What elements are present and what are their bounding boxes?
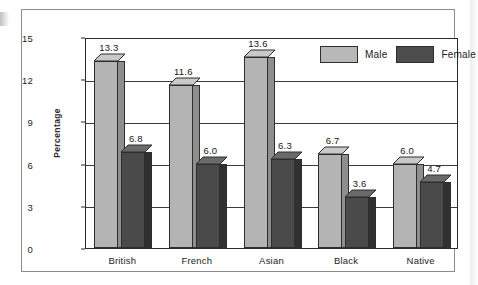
chart-legend: MaleFemale [320,46,476,63]
legend-item-female[interactable]: Female [396,46,476,63]
bar-front-face [393,164,417,248]
x-axis-label-black: Black [334,255,358,266]
value-label-french-male: 11.6 [174,66,193,77]
y-axis-tick-label: 3 [7,201,33,212]
legend-label-female: Female [441,49,476,60]
bar-front-face [420,182,444,248]
female-swatch [396,46,434,63]
bar-british-female [121,152,145,248]
bar-side-face [220,164,227,248]
bar-asian-female [271,159,295,248]
bar-black-female [345,197,369,248]
bar-front-face [196,164,220,248]
bar-native-female [420,182,444,248]
y-axis-tick-label: 15 [7,33,33,44]
bar-front-face [318,154,342,248]
legend-label-male: Male [365,49,387,60]
bar-french-male [169,85,193,248]
bar-side-face [369,197,376,248]
legend-item-male[interactable]: Male [320,46,387,63]
value-label-british-male: 13.3 [99,42,118,53]
value-label-french-female: 6.0 [203,145,217,156]
bar-top-face [196,157,220,164]
x-axis-label-french: French [182,255,213,266]
bar-top-face [169,78,193,85]
value-label-native-male: 6.0 [400,145,414,156]
bar-top-face [318,147,342,154]
bar-front-face [169,85,193,248]
bar-british-male [94,61,118,248]
bar-side-face [145,152,152,248]
bar-side-face [295,159,302,248]
bar-top-face [345,190,369,197]
scan-artifact-right [470,0,478,285]
bar-black-male [318,154,342,248]
value-label-british-female: 6.8 [129,133,143,144]
value-label-native-female: 4.7 [427,163,441,174]
bar-front-face [94,61,118,248]
value-label-asian-female: 6.3 [278,140,292,151]
value-label-black-female: 3.6 [353,178,367,189]
bar-top-face [271,152,295,159]
bar-top-face [94,54,118,61]
bar-native-male [393,164,417,248]
bar-asian-male [244,57,268,248]
y-axis-tick-label: 0 [7,244,33,255]
x-axis-label-asian: Asian [259,255,284,266]
bar-top-face [420,175,444,182]
bar-front-face [244,57,268,248]
y-axis-tick-label: 12 [7,75,33,86]
bar-french-female [196,164,220,248]
y-axis-tick-label: 6 [7,159,33,170]
bar-front-face [345,197,369,248]
x-axis-label-native: Native [407,255,435,266]
bar-front-face [271,159,295,248]
y-axis-title: Percentage [52,108,62,158]
bar-top-face [244,50,268,57]
value-label-asian-male: 13.6 [248,38,267,49]
bar-top-face [121,145,145,152]
figure-frame: Percentage 03691215 BritishFrenchAsianBl… [21,9,455,272]
scan-artifact-left [0,12,9,26]
y-axis-tick-label: 9 [7,117,33,128]
bar-side-face [444,182,451,248]
x-axis-label-british: British [108,255,136,266]
male-swatch [320,46,358,63]
bar-front-face [121,152,145,248]
bar-top-face [393,157,417,164]
value-label-black-male: 6.7 [326,135,340,146]
